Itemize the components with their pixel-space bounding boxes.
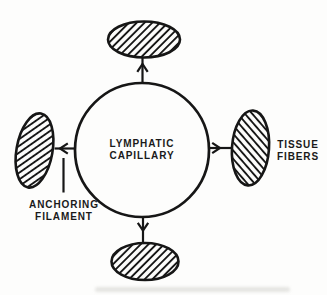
tissue-fiber-bottom-ellipse [112, 243, 179, 280]
tissue-fiber-left-ellipse [10, 110, 58, 190]
anchoring-filament-label-line2: FILAMENT [29, 210, 99, 222]
anchoring-filament-label-line1: ANCHORING [29, 199, 99, 211]
tissue-fibers-label: TISSUE FIBERS [277, 139, 319, 162]
lymphatic-capillary-diagram: LYMPHATIC CAPILLARY ANCHORING FILAMENT T… [0, 0, 327, 295]
lymphatic-capillary-label: LYMPHATIC CAPILLARY [110, 138, 175, 161]
tissue-fiber-right-ellipse [229, 109, 271, 186]
anchoring-filament-label: ANCHORING FILAMENT [29, 199, 99, 222]
lymphatic-capillary-label-line2: CAPILLARY [110, 149, 175, 161]
tissue-fiber-top-ellipse [108, 22, 180, 58]
tissue-fibers-label-line2: FIBERS [277, 150, 319, 162]
scan-smudge-artifact [95, 287, 290, 292]
tissue-fibers-label-line1: TISSUE [277, 139, 319, 151]
lymphatic-capillary-label-line1: LYMPHATIC [110, 138, 175, 150]
